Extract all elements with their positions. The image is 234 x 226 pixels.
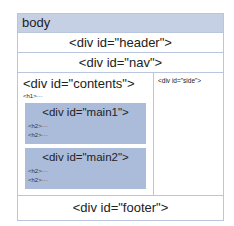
main2-h2-label: <h2>··· <box>28 167 48 175</box>
main2-box: <div id="main2"> <h2>··· <h2>··· <box>25 148 146 189</box>
body-box: body <div id="header"> <div id="nav"> <d… <box>17 13 224 221</box>
main2-h2-label: <h2>··· <box>28 176 48 184</box>
footer-label: <div id="footer"> <box>73 200 169 215</box>
h1-label: <h1>··· <box>23 92 43 100</box>
side-label: <div id="side"> <box>158 77 201 85</box>
contents-label: <div id="contents"> <box>23 76 135 91</box>
main1-h2-label: <h2>··· <box>28 122 48 130</box>
body-band: body <box>18 14 223 32</box>
contents-box: <div id="contents"> <h1>··· <div id="mai… <box>18 73 154 195</box>
main1-box: <div id="main1"> <h2>··· <h2>··· <box>25 103 146 144</box>
main2-label: <div id="main2"> <box>25 151 146 164</box>
side-box: <div id="side"> <box>154 73 223 195</box>
header-box: <div id="header"> <box>18 32 223 52</box>
nav-label: <div id="nav"> <box>79 55 162 70</box>
main1-label: <div id="main1"> <box>25 106 146 119</box>
header-label: <div id="header"> <box>69 35 172 50</box>
main1-h2-label: <h2>··· <box>28 131 48 139</box>
body-label: body <box>22 15 50 31</box>
content-area: <div id="contents"> <h1>··· <div id="mai… <box>18 72 223 195</box>
footer-box: <div id="footer"> <box>18 195 223 220</box>
nav-box: <div id="nav"> <box>18 52 223 72</box>
